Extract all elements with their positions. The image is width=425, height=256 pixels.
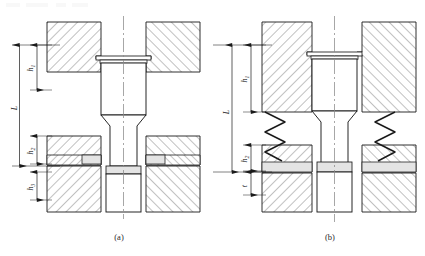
fig-a-dim-h3-label: h3 <box>26 183 36 190</box>
figure-a: L h1 h2 h3 <box>10 16 200 242</box>
scan-artifact <box>72 3 88 7</box>
technical-drawing-svg: L h1 h2 h3 <box>0 0 425 256</box>
fig-a-upper-plate-right <box>146 22 200 72</box>
scan-artifact <box>56 3 66 7</box>
figure-b: L h1 h2 t <box>213 16 416 242</box>
fig-b-lower-plate-right <box>362 173 416 212</box>
fig-b-dim-L-label: L <box>222 109 231 115</box>
scan-artifact <box>26 3 48 7</box>
fig-a-bushing-seat-left <box>82 155 101 164</box>
fig-b-lower-plate-left <box>262 173 312 212</box>
fig-a-upper-plate-left <box>47 22 101 72</box>
fig-a-caption: (a) <box>114 232 124 242</box>
fig-b-caption: (b) <box>325 232 335 242</box>
fig-b-bushing-seat-right <box>362 162 416 172</box>
fig-a-dim-h2-label: h2 <box>26 147 36 154</box>
fig-a-bushing-seat-right <box>146 155 165 164</box>
scan-artifact <box>6 3 20 7</box>
fig-a-dim-L-label: L <box>10 105 19 111</box>
fig-b-upper-plate-right <box>357 22 416 112</box>
fig-a-lower-plate-left <box>47 166 101 212</box>
drawing-sheet: L h1 h2 h3 <box>0 0 425 256</box>
fig-b-dim-h2-label: h2 <box>240 155 250 162</box>
fig-b-bushing-seat-left <box>262 162 312 172</box>
fig-a-lower-plate-right <box>146 166 200 212</box>
fig-a-dim-h1-label: h1 <box>26 64 36 71</box>
fig-b-dim-t-label: t <box>240 184 249 187</box>
fig-b-upper-plate-left <box>262 22 312 112</box>
fig-b-dim-h1-label: h1 <box>240 75 250 82</box>
